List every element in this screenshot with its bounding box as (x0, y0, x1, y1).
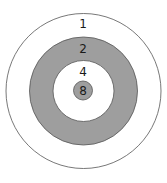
ring-label-4: 4 (79, 65, 87, 79)
target-diagram: 1 2 4 8 (0, 0, 167, 183)
ring-label-2: 2 (79, 42, 87, 56)
ring-label-8: 8 (79, 84, 87, 98)
ring-label-1: 1 (79, 17, 87, 31)
